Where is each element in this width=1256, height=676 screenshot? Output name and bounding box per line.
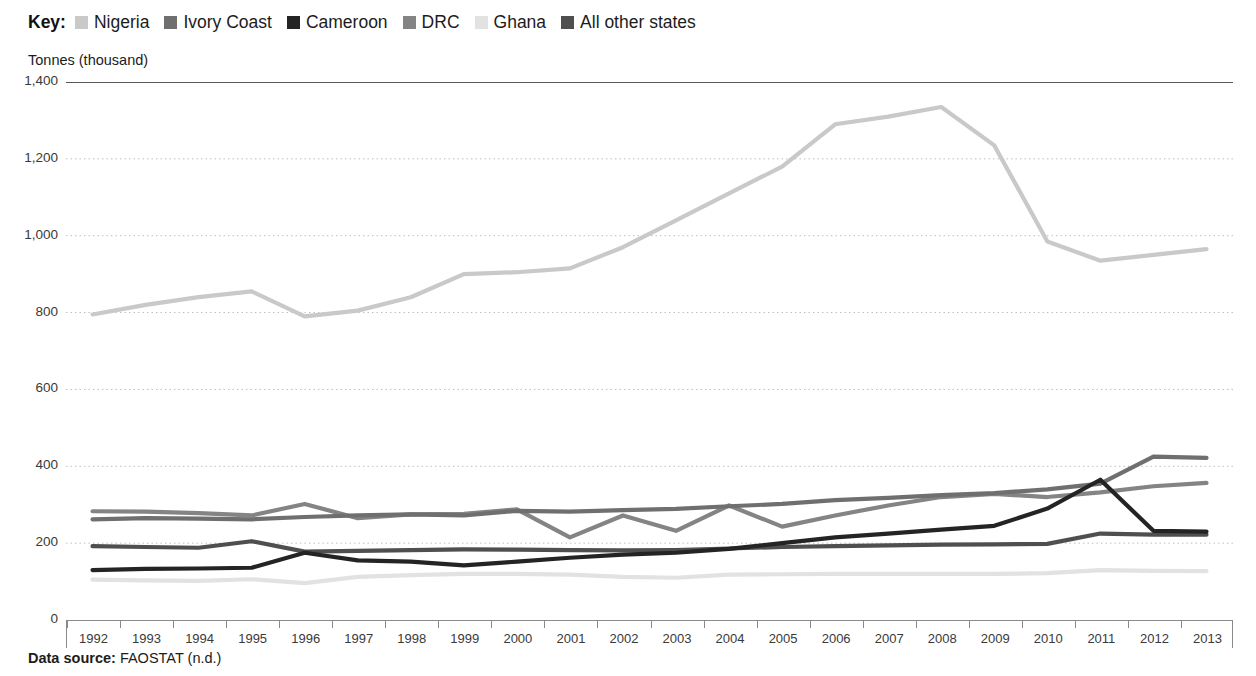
x-axis-tick-mark bbox=[863, 621, 864, 628]
y-axis-tick-label: 1,400 bbox=[6, 73, 58, 88]
x-axis-tick: 2000 bbox=[491, 621, 544, 649]
x-axis-tick-label: 1998 bbox=[397, 625, 426, 646]
x-axis-tick: 1996 bbox=[279, 621, 332, 649]
y-axis-tick-label: 0 bbox=[6, 611, 58, 626]
legend-swatch-ivory-coast bbox=[164, 16, 177, 29]
legend-item-all-other-states: All other states bbox=[561, 12, 696, 33]
x-axis-tick: 2010 bbox=[1022, 621, 1075, 649]
chart-canvas: Key: Nigeria Ivory Coast Cameroon DRC Gh… bbox=[0, 0, 1256, 676]
series-line-ghana bbox=[93, 570, 1207, 583]
x-axis-tick-mark bbox=[1181, 621, 1182, 628]
y-axis-tick-label: 1,200 bbox=[6, 150, 58, 165]
x-axis-tick-label: 2013 bbox=[1193, 625, 1222, 646]
x-axis-tick-mark bbox=[67, 621, 68, 628]
x-axis-tick: 2005 bbox=[757, 621, 810, 649]
y-axis-tick-label: 200 bbox=[6, 534, 58, 549]
x-axis-tick-label: 2003 bbox=[663, 625, 692, 646]
x-axis-tick-mark bbox=[491, 621, 492, 628]
x-axis: 1992199319941995199619971998199920002001… bbox=[66, 620, 1233, 648]
x-axis-tick-mark bbox=[1075, 621, 1076, 628]
x-axis-tick-mark bbox=[757, 621, 758, 628]
legend-swatch-cameroon bbox=[287, 16, 300, 29]
x-axis-tick: 2012 bbox=[1128, 621, 1181, 649]
y-axis-tick-label: 1,000 bbox=[6, 227, 58, 242]
y-axis-tick-label: 400 bbox=[6, 457, 58, 472]
data-source-note: Data source: FAOSTAT (n.d.) bbox=[28, 650, 221, 666]
x-axis-tick: 2002 bbox=[597, 621, 650, 649]
x-axis-tick-label: 1995 bbox=[238, 625, 267, 646]
legend-item-cameroon: Cameroon bbox=[287, 12, 388, 33]
x-axis-tick: 2009 bbox=[969, 621, 1022, 649]
x-axis-tick-label: 2002 bbox=[610, 625, 639, 646]
x-axis-tick: 2013 bbox=[1181, 621, 1234, 649]
legend-item-ivory-coast: Ivory Coast bbox=[164, 12, 272, 33]
x-axis-tick-mark bbox=[1022, 621, 1023, 628]
x-axis-tick-mark bbox=[597, 621, 598, 628]
data-source-label: Data source: bbox=[28, 650, 116, 666]
x-axis-tick-label: 2005 bbox=[769, 625, 798, 646]
legend-item-drc: DRC bbox=[403, 12, 460, 33]
x-axis-tick-label: 2009 bbox=[981, 625, 1010, 646]
line-chart-svg bbox=[66, 82, 1233, 620]
legend-item-ghana: Ghana bbox=[475, 12, 547, 33]
y-axis-tick-label: 600 bbox=[6, 380, 58, 395]
x-axis-tick: 2006 bbox=[810, 621, 863, 649]
x-axis-tick-mark bbox=[226, 621, 227, 628]
x-axis-tick-mark bbox=[438, 621, 439, 628]
legend-swatch-ghana bbox=[475, 16, 488, 29]
x-axis-tick-label: 2010 bbox=[1034, 625, 1063, 646]
series-line-all-other-states bbox=[93, 534, 1207, 552]
x-axis-tick-mark bbox=[1128, 621, 1129, 628]
x-axis-tick-mark bbox=[279, 621, 280, 628]
x-axis-tick-mark bbox=[810, 621, 811, 628]
x-axis-tick-mark bbox=[120, 621, 121, 628]
x-axis-tick-mark bbox=[651, 621, 652, 628]
x-axis-tick-label: 1999 bbox=[450, 625, 479, 646]
legend-swatch-all-other-states bbox=[561, 16, 574, 29]
legend-label-ghana: Ghana bbox=[494, 12, 547, 33]
x-axis-tick-label: 1992 bbox=[79, 625, 108, 646]
x-axis-tick: 2011 bbox=[1075, 621, 1128, 649]
x-axis-tick-label: 1993 bbox=[132, 625, 161, 646]
plot-area bbox=[66, 82, 1233, 620]
x-axis-tick-label: 2011 bbox=[1087, 625, 1115, 646]
x-axis-tick: 1998 bbox=[385, 621, 438, 649]
x-axis-tick-label: 1994 bbox=[185, 625, 214, 646]
legend-label-nigeria: Nigeria bbox=[94, 12, 149, 33]
x-axis-tick-label: 2006 bbox=[822, 625, 851, 646]
x-axis-tick: 1997 bbox=[332, 621, 385, 649]
x-axis-tick: 1995 bbox=[226, 621, 279, 649]
x-axis-tick: 1994 bbox=[173, 621, 226, 649]
x-axis-tick-label: 2004 bbox=[716, 625, 745, 646]
x-axis-tick: 1999 bbox=[438, 621, 491, 649]
y-axis-tick-label: 800 bbox=[6, 304, 58, 319]
x-axis-tick-mark bbox=[969, 621, 970, 628]
y-axis-title: Tonnes (thousand) bbox=[28, 52, 148, 68]
x-axis-tick-label: 2008 bbox=[928, 625, 957, 646]
data-source-value: FAOSTAT (n.d.) bbox=[120, 650, 222, 666]
x-axis-tick: 2008 bbox=[916, 621, 969, 649]
x-axis-tick-mark bbox=[332, 621, 333, 628]
x-axis-tick: 1993 bbox=[120, 621, 173, 649]
x-axis-tick: 2001 bbox=[544, 621, 597, 649]
x-axis-tick-label: 2000 bbox=[503, 625, 532, 646]
x-axis-tick: 2007 bbox=[863, 621, 916, 649]
legend-key-label: Key: bbox=[28, 12, 66, 33]
x-axis-tick-label: 2012 bbox=[1140, 625, 1169, 646]
x-axis-tick: 1992 bbox=[67, 621, 120, 649]
legend-label-drc: DRC bbox=[422, 12, 460, 33]
x-axis-tick-mark bbox=[385, 621, 386, 628]
series-line-nigeria bbox=[93, 107, 1207, 316]
x-axis-tick-label: 2001 bbox=[556, 625, 585, 646]
legend-swatch-nigeria bbox=[75, 16, 88, 29]
x-axis-tick-label: 2007 bbox=[875, 625, 904, 646]
x-axis-tick-mark bbox=[704, 621, 705, 628]
legend-item-nigeria: Nigeria bbox=[75, 12, 149, 33]
x-axis-tick-mark bbox=[916, 621, 917, 628]
legend-label-all-other-states: All other states bbox=[580, 12, 696, 33]
legend-label-cameroon: Cameroon bbox=[306, 12, 388, 33]
x-axis-tick-mark bbox=[544, 621, 545, 628]
x-axis-tick-label: 1996 bbox=[291, 625, 320, 646]
x-axis-tick: 2003 bbox=[651, 621, 704, 649]
legend-label-ivory-coast: Ivory Coast bbox=[183, 12, 272, 33]
